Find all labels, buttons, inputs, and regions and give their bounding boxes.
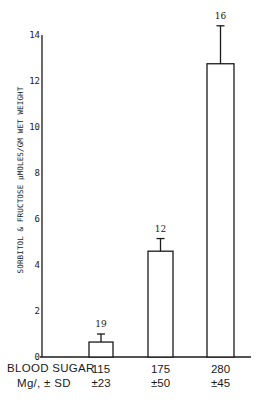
- x-caption-line2: Mg/, ± SD: [17, 377, 71, 389]
- n-label: 12: [155, 224, 166, 234]
- category-label: 115±23: [91, 362, 110, 390]
- category-mean: 175: [151, 362, 170, 376]
- x-caption-line1: BLOOD SUGAR: [7, 362, 95, 374]
- y-tick-label: 8: [35, 168, 40, 178]
- category-sd: ±23: [91, 376, 110, 390]
- bars: [89, 26, 234, 357]
- n-label: 16: [215, 11, 226, 21]
- category-mean: 280: [211, 362, 230, 376]
- bar: [89, 342, 113, 357]
- category-sd: ±45: [211, 376, 230, 390]
- y-tick-label: 4: [35, 260, 40, 270]
- category-label: 280±45: [211, 362, 230, 390]
- bar: [148, 251, 173, 357]
- y-tick-label: 14: [29, 30, 40, 40]
- y-tick-label: 6: [35, 214, 40, 224]
- y-axis-label: SORBITOL & FRUCTOSE μMOLES/GM WET WEIGHT: [16, 87, 25, 274]
- chart-plot-area: [0, 0, 264, 402]
- y-tick-label: 0: [35, 352, 40, 362]
- bar: [207, 64, 234, 357]
- n-label: 19: [95, 319, 106, 329]
- y-tick-label: 10: [29, 122, 40, 132]
- category-mean: 115: [91, 362, 110, 376]
- category-sd: ±50: [151, 376, 170, 390]
- y-tick-label: 12: [29, 76, 40, 86]
- category-label: 175±50: [151, 362, 170, 390]
- y-tick-label: 2: [35, 306, 40, 316]
